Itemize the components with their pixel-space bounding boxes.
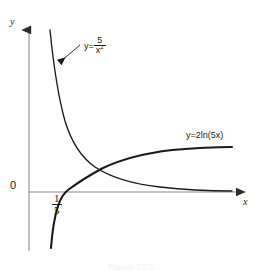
curve-label-reciprocal: y= 5 x2 xyxy=(84,37,106,56)
fraction-five-over-x-squared: 5 x2 xyxy=(94,36,106,55)
fraction-numerator: 1 xyxy=(52,193,62,204)
curve-label-logarithm: y=2ln(5x) xyxy=(186,130,223,140)
x-tick-one-fifth: 1 5 xyxy=(52,194,62,217)
fraction-denominator: x2 xyxy=(94,45,106,55)
figure-caption: Figure 10.5 xyxy=(0,262,262,271)
curve-logarithm xyxy=(51,147,232,248)
x-axis-label: x xyxy=(243,196,247,207)
figure-container: y x 0 1 5 y= 5 x2 y=2ln(5x) Figure 10.5 xyxy=(0,0,262,271)
curve-label-prefix: y= xyxy=(84,41,94,51)
fraction-one-fifth: 1 5 xyxy=(52,193,62,216)
origin-label: 0 xyxy=(10,179,16,191)
denominator-exponent: 2 xyxy=(100,44,103,50)
reciprocal-leader-line xyxy=(60,45,80,62)
fraction-denominator: 5 xyxy=(52,204,62,216)
y-axis-label: y xyxy=(10,16,14,27)
curve-reciprocal xyxy=(50,30,232,191)
